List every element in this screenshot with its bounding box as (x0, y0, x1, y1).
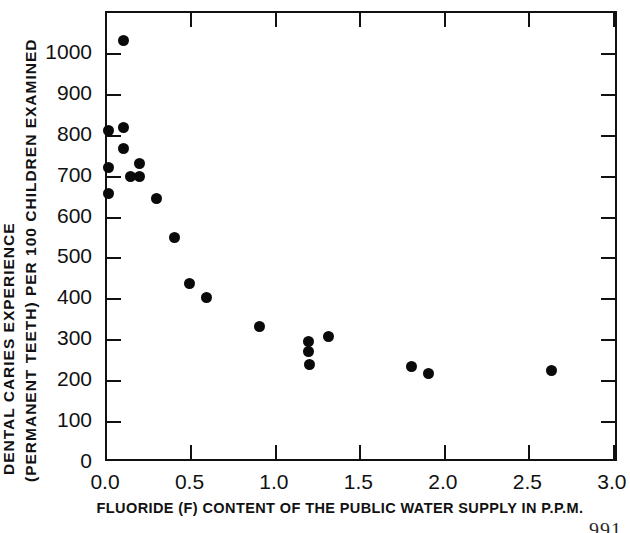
plot-area (105, 11, 617, 461)
y-axis-title-line-2: (PERMANENT TEETH) PER 100 CHILDREN EXAMI… (22, 27, 42, 482)
y-axis-tick-right (601, 421, 615, 423)
y-axis-tick-right (601, 217, 615, 219)
data-point (118, 35, 129, 46)
x-axis-tick-label: 2.0 (413, 470, 473, 494)
x-axis-tick (275, 445, 277, 459)
x-axis-tick-label: 0.0 (75, 470, 135, 494)
y-axis-tick-right (601, 135, 615, 137)
data-point (169, 232, 180, 243)
data-point (304, 359, 315, 370)
y-axis-tick (107, 217, 121, 219)
x-axis-tick-top (190, 13, 192, 27)
data-point (254, 321, 265, 332)
data-point (323, 331, 334, 342)
y-axis-tick-right (601, 339, 615, 341)
x-axis-tick-top (528, 13, 530, 27)
y-axis-tick-right (601, 257, 615, 259)
data-point (134, 158, 145, 169)
y-axis-tick (107, 176, 121, 178)
y-axis-title-line-1: DENTAL CARIES EXPERIENCE (0, 20, 20, 475)
data-point (103, 162, 114, 173)
x-axis-tick (613, 445, 615, 459)
data-point (151, 193, 162, 204)
y-axis-tick-right (601, 298, 615, 300)
data-point (103, 188, 114, 199)
y-axis-tick (107, 53, 121, 55)
x-axis-tick-label: 0.5 (159, 470, 219, 494)
page-number: 991 (589, 519, 622, 533)
x-axis-tick-top (359, 13, 361, 27)
x-axis-title: FLUORIDE (F) CONTENT OF THE PUBLIC WATER… (55, 500, 625, 516)
y-axis-title: DENTAL CARIES EXPERIENCE (PERMANENT TEET… (0, 0, 60, 470)
x-axis-tick (190, 445, 192, 459)
data-point (184, 278, 195, 289)
y-axis-tick-right (601, 176, 615, 178)
data-point (201, 292, 212, 303)
y-axis-tick-right (601, 53, 615, 55)
data-point (406, 361, 417, 372)
x-axis-tick-top (613, 13, 615, 27)
y-axis-tick-right (601, 94, 615, 96)
x-axis-tick-label: 1.5 (328, 470, 388, 494)
x-axis-tick (359, 445, 361, 459)
data-point (134, 171, 145, 182)
x-axis-tick-top (444, 13, 446, 27)
y-axis-tick (107, 421, 121, 423)
x-axis-tick-label: 3.0 (582, 470, 630, 494)
x-axis-tick-label: 1.0 (244, 470, 304, 494)
y-axis-tick (107, 380, 121, 382)
y-axis-tick-right (601, 380, 615, 382)
x-axis-tick (444, 445, 446, 459)
data-point (303, 346, 314, 357)
data-point (118, 143, 129, 154)
data-point (546, 365, 557, 376)
x-axis-tick-label: 2.5 (497, 470, 557, 494)
y-axis-tick (107, 339, 121, 341)
y-axis-tick (107, 298, 121, 300)
data-point (423, 368, 434, 379)
data-point (118, 122, 129, 133)
figure-scatter-fluoride-dental-caries: DENTAL CARIES EXPERIENCE (PERMANENT TEET… (0, 0, 630, 533)
y-axis-tick (107, 257, 121, 259)
x-axis-tick-top (275, 13, 277, 27)
y-axis-tick (107, 94, 121, 96)
x-axis-tick (528, 445, 530, 459)
